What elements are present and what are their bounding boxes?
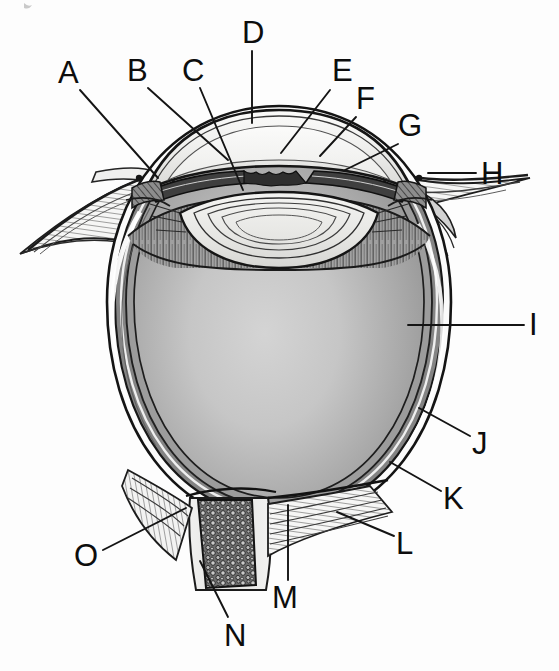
label-a: A	[58, 57, 79, 88]
eye-anatomy-figure: ABCDEFGHIJKLMNO	[0, 0, 559, 671]
label-g: G	[398, 110, 422, 141]
label-e: E	[332, 55, 353, 86]
schlemm-canal-right	[416, 175, 422, 181]
label-o: O	[74, 540, 98, 571]
label-l: L	[396, 528, 413, 559]
label-k: K	[443, 483, 464, 514]
label-c: C	[182, 55, 204, 86]
label-i: I	[529, 309, 538, 340]
label-j: J	[472, 428, 488, 459]
label-b: B	[127, 55, 148, 86]
label-n: N	[224, 620, 246, 651]
label-m: M	[272, 582, 298, 613]
label-f: F	[356, 83, 375, 114]
schlemm-canal-left	[136, 175, 142, 181]
label-h: H	[481, 158, 503, 189]
label-d: D	[242, 17, 264, 48]
